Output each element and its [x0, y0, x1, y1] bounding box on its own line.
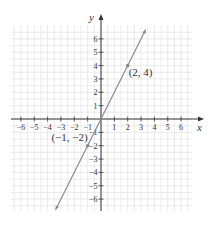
x-axis-label: x: [196, 121, 202, 133]
data-point: [86, 144, 90, 148]
y-tick-label: −5: [89, 182, 98, 191]
x-tick-label: 3: [139, 123, 143, 132]
y-tick-label: 4: [94, 62, 98, 71]
y-tick-label: 5: [94, 48, 98, 57]
x-tick-label: 4: [152, 123, 156, 132]
data-point-label: (−1, −2): [51, 131, 88, 144]
y-tick-label: 2: [94, 88, 98, 97]
y-tick-label: −6: [89, 195, 98, 204]
x-tick-label: 1: [112, 123, 116, 132]
data-point-label: (2, 4): [129, 66, 153, 79]
y-tick-label: 6: [94, 35, 98, 44]
y-tick-label: −3: [89, 155, 98, 164]
x-tick-label: 2: [126, 123, 130, 132]
x-tick-label: −5: [30, 123, 39, 132]
y-axis-arrow-icon: [99, 14, 104, 20]
y-tick-label: 1: [94, 102, 98, 111]
y-axis-label: y: [88, 11, 94, 23]
y-tick-label: −4: [89, 168, 98, 177]
y-tick-label: 3: [94, 75, 98, 84]
x-tick-label: 6: [179, 123, 183, 132]
x-tick-label: −6: [17, 123, 26, 132]
coordinate-plane: −6−5−4−3−2−1123456−6−5−4−3−2−1123456 (2,…: [0, 0, 216, 228]
x-tick-label: 5: [166, 123, 170, 132]
y-tick-label: −2: [89, 142, 98, 151]
